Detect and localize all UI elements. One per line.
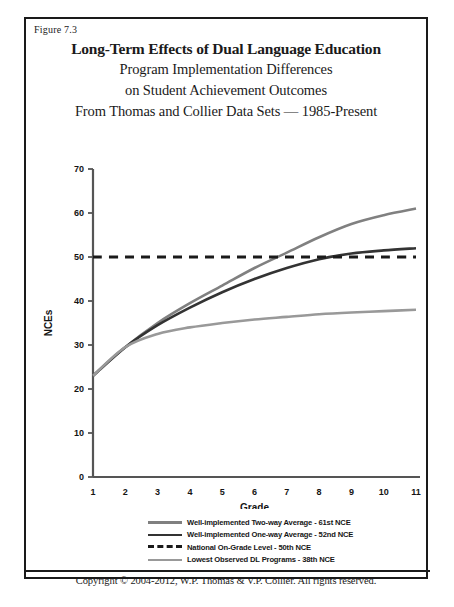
legend-item-label: Well-implemented One-way Average - 52nd … bbox=[187, 530, 353, 539]
legend-item[interactable]: Lowest Observed DL Programs - 38th NCE bbox=[26, 554, 426, 567]
x-tick-label: 5 bbox=[220, 487, 225, 497]
title-line-2: Program Implementation Differences bbox=[26, 59, 426, 80]
x-tick-label: 3 bbox=[155, 487, 160, 497]
legend-item-label: National On-Grade Level - 50th NCE bbox=[187, 543, 311, 552]
x-tick-label: 9 bbox=[349, 487, 354, 497]
copyright-divider bbox=[26, 570, 430, 572]
x-axis-title: Grade bbox=[240, 502, 269, 509]
legend-item-label: Lowest Observed DL Programs - 38th NCE bbox=[187, 555, 335, 564]
y-tick-label: 10 bbox=[74, 428, 84, 438]
title-line-3: on Student Achievement Outcomes bbox=[26, 80, 426, 101]
y-tick-label: 0 bbox=[79, 472, 84, 482]
series-line bbox=[93, 209, 416, 376]
x-tick-label: 7 bbox=[284, 487, 289, 497]
chart-plot-area: 0102030405060701234567891011GradeNCEs bbox=[26, 147, 426, 509]
legend-swatch-national bbox=[148, 541, 182, 553]
legend-swatch-one-way bbox=[148, 529, 182, 541]
series-line bbox=[93, 310, 416, 376]
y-tick-label: 60 bbox=[74, 208, 84, 218]
x-tick-label: 8 bbox=[317, 487, 322, 497]
chart-tick-labels: 0102030405060701234567891011GradeNCEs bbox=[43, 164, 421, 509]
x-tick-label: 6 bbox=[252, 487, 257, 497]
x-tick-label: 11 bbox=[411, 487, 421, 497]
chart-axes bbox=[88, 169, 420, 477]
legend-item-label: Well-implemented Two-way Average - 61st … bbox=[187, 518, 351, 527]
legend-item[interactable]: Well-implemented Two-way Average - 61st … bbox=[26, 516, 426, 529]
y-tick-label: 20 bbox=[74, 384, 84, 394]
y-tick-label: 50 bbox=[74, 252, 84, 262]
copyright-text: Copyright © 2004-2012, W.P. Thomas & V.P… bbox=[26, 575, 426, 586]
x-tick-label: 2 bbox=[123, 487, 128, 497]
title-line-4: From Thomas and Collier Data Sets — 1985… bbox=[26, 101, 426, 122]
x-tick-label: 4 bbox=[187, 487, 192, 497]
figure-frame: Figure 7.3 Long-Term Effects of Dual Lan… bbox=[24, 17, 428, 579]
figure-number-label: Figure 7.3 bbox=[34, 24, 77, 35]
y-axis-title: NCEs bbox=[43, 309, 54, 336]
legend-item[interactable]: National On-Grade Level - 50th NCE bbox=[26, 541, 426, 554]
figure-title-block: Long-Term Effects of Dual Language Educa… bbox=[26, 39, 426, 122]
line-chart-svg: 0102030405060701234567891011GradeNCEs bbox=[26, 147, 426, 509]
x-tick-label: 10 bbox=[379, 487, 389, 497]
legend-item[interactable]: Well-implemented One-way Average - 52nd … bbox=[26, 529, 426, 542]
legend-swatch-lowest bbox=[148, 554, 182, 566]
x-tick-label: 1 bbox=[90, 487, 95, 497]
legend-swatch-two-way bbox=[148, 516, 182, 528]
y-tick-label: 40 bbox=[74, 296, 84, 306]
chart-series bbox=[93, 209, 416, 376]
chart-legend: Well-implemented Two-way Average - 61st … bbox=[26, 516, 426, 566]
y-tick-label: 30 bbox=[74, 340, 84, 350]
page-title: Long-Term Effects of Dual Language Educa… bbox=[26, 39, 426, 59]
y-tick-label: 70 bbox=[74, 164, 84, 174]
